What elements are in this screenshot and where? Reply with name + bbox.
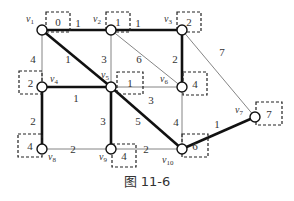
node-v7 xyxy=(250,112,260,122)
edge-weight-label: 1 xyxy=(214,118,220,130)
node-label: v7 xyxy=(235,104,243,117)
edge-weight-label: 1 xyxy=(65,53,71,65)
edge-v5-v10 xyxy=(111,87,182,149)
node-v9 xyxy=(106,144,116,154)
node-value: 7 xyxy=(266,108,272,120)
node-value: 1 xyxy=(115,16,121,28)
edge-v3-v7 xyxy=(182,30,255,117)
node-label: v9 xyxy=(99,151,107,164)
edge-weight-label: 3 xyxy=(101,53,107,65)
node-value: 2 xyxy=(28,77,34,89)
node-label: v1 xyxy=(26,13,34,26)
node-label: v10 xyxy=(162,154,174,167)
node-v8 xyxy=(37,144,47,154)
value-boxes-layer xyxy=(18,12,282,167)
edge-weight-label: 5 xyxy=(135,115,141,127)
edge-weight-label: 7 xyxy=(219,46,225,58)
node-value: 4 xyxy=(192,78,198,90)
node-value: 6 xyxy=(192,140,198,152)
node-v4 xyxy=(37,82,47,92)
node-v1 xyxy=(37,25,47,35)
edge-weight-label: 3 xyxy=(148,94,154,106)
node-v5 xyxy=(106,82,116,92)
edge-weight-label: 1 xyxy=(75,17,81,29)
node-v10 xyxy=(177,144,187,154)
node-value: 4 xyxy=(121,150,127,162)
node-value: 0 xyxy=(55,16,61,28)
figure-caption: 图 11-6 xyxy=(0,171,294,190)
node-value: 4 xyxy=(27,140,33,152)
node-label: v3 xyxy=(164,13,172,26)
nodes-layer xyxy=(37,25,260,154)
labels-layer: 114136271323541220v11v22v32v41v54v67v74v… xyxy=(26,13,272,167)
edge-weight-label: 2 xyxy=(172,53,178,65)
node-label: v4 xyxy=(50,73,58,86)
node-label: v8 xyxy=(48,151,56,164)
edge-weight-label: 2 xyxy=(30,115,36,127)
edge-weight-label: 2 xyxy=(70,143,76,155)
edge-weight-label: 4 xyxy=(173,116,179,128)
edge-weight-label: 4 xyxy=(30,53,36,65)
edge-weight-label: 1 xyxy=(73,92,79,104)
edge-weight-label: 1 xyxy=(135,17,141,29)
node-v6 xyxy=(177,82,187,92)
edge-weight-label: 2 xyxy=(143,143,149,155)
edge-weight-label: 6 xyxy=(136,53,142,65)
edge-weight-label: 3 xyxy=(100,115,106,127)
node-label: v2 xyxy=(93,13,101,26)
node-value: 1 xyxy=(127,77,133,89)
node-value: 2 xyxy=(186,16,192,28)
